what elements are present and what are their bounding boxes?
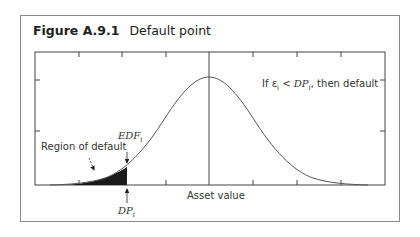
dp-label: DPi bbox=[118, 205, 135, 219]
plot-area bbox=[35, 52, 385, 185]
edf-label: EDFi bbox=[118, 130, 143, 144]
region-of-default-label: Region of default bbox=[41, 141, 126, 152]
axis-ticks bbox=[35, 52, 385, 185]
default-condition-label: If εi < DPi, then default bbox=[262, 78, 378, 92]
x-axis-label: Asset value bbox=[187, 190, 245, 201]
region-arrow bbox=[89, 158, 94, 170]
default-region-shade bbox=[60, 167, 127, 185]
distribution-chart bbox=[0, 0, 420, 237]
